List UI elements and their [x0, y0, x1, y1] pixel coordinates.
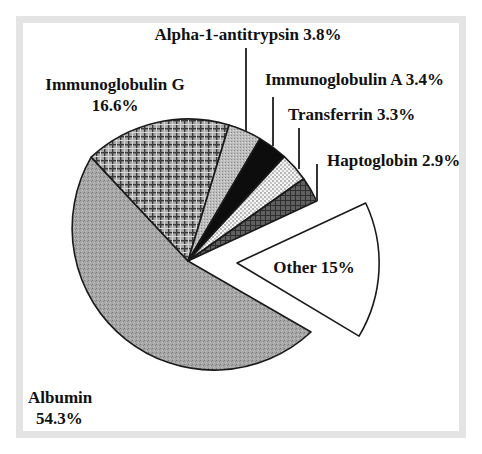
label-albumin-name: Albumin — [28, 388, 93, 407]
label-immunoglobulin-a: Immunoglobulin A 3.4% — [265, 70, 444, 89]
label-other: Other 15% — [273, 258, 354, 277]
label-transferrin: Transferrin 3.3% — [288, 105, 415, 124]
label-albumin-value: 54.3% — [36, 409, 83, 428]
label-immunoglobulin-g-value: 16.6% — [92, 96, 139, 115]
label-haptoglobin: Haptoglobin 2.9% — [327, 151, 460, 170]
label-immunoglobulin-g-name: Immunoglobulin G — [45, 75, 184, 94]
label-alpha-1-antitrypsin: Alpha-1-antitrypsin 3.8% — [154, 25, 341, 44]
pie-chart: Alpha-1-antitrypsin 3.8% Immunoglobulin … — [0, 0, 482, 454]
